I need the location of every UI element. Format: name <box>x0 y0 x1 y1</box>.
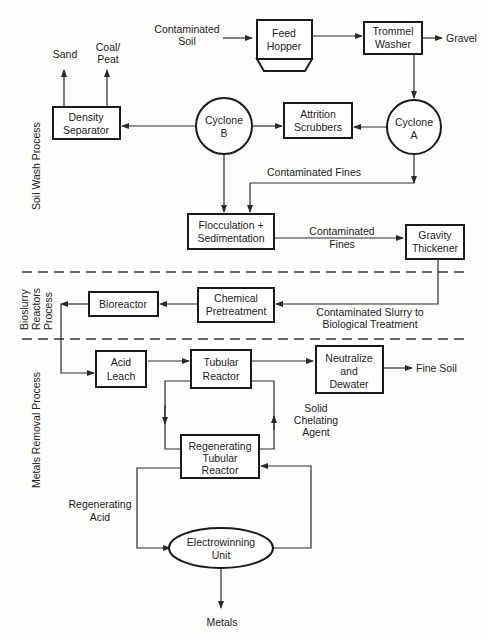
svg-text:Separator: Separator <box>63 124 110 136</box>
arrow-electrowinning-to-regen <box>261 466 311 548</box>
svg-text:Soil: Soil <box>178 35 196 47</box>
svg-text:Hopper: Hopper <box>267 40 302 52</box>
slurry-to-bio-label: Contaminated Slurry to Biological Treatm… <box>316 306 424 330</box>
density-separator-node: Density Separator <box>53 107 120 139</box>
section-label-bioslurry: Bioslurry Reactors Process <box>18 288 54 330</box>
sand-label: Sand <box>53 48 78 60</box>
trommel-washer-node: Trommel Washer <box>364 22 422 54</box>
svg-text:Neutralize: Neutralize <box>325 352 372 364</box>
svg-text:Process: Process <box>42 292 54 330</box>
svg-text:Bioreactor: Bioreactor <box>99 298 147 310</box>
electrowinning-unit-node: Electrowinning Unit <box>169 528 273 568</box>
feed-hopper-node: Feed Hopper <box>257 20 312 71</box>
cyclone-a-node: Cyclone A <box>387 100 441 154</box>
solid-chelating-agent-label: Solid Chelating Agent <box>294 402 339 438</box>
svg-text:Leach: Leach <box>107 370 136 382</box>
svg-text:Chemical: Chemical <box>214 292 258 304</box>
svg-text:Reactor: Reactor <box>202 464 239 476</box>
svg-text:Fines: Fines <box>329 238 355 250</box>
svg-text:Acid: Acid <box>111 356 132 368</box>
svg-text:Chelating: Chelating <box>294 414 339 426</box>
arrow-thickener-to-pretreatment <box>276 259 438 304</box>
svg-text:Feed: Feed <box>272 27 296 39</box>
svg-text:Contaminated: Contaminated <box>309 225 375 237</box>
gravity-thickener-node: Gravity Thickener <box>406 225 464 259</box>
svg-text:Reactors: Reactors <box>30 288 42 330</box>
svg-text:Dewater: Dewater <box>329 378 369 390</box>
svg-text:Contaminated Slurry to: Contaminated Slurry to <box>316 306 424 318</box>
svg-text:Peat: Peat <box>97 53 119 65</box>
bioreactor-node: Bioreactor <box>89 292 158 316</box>
svg-text:Scrubbers: Scrubbers <box>294 121 342 133</box>
svg-text:Unit: Unit <box>212 549 231 561</box>
cyclone-b-node: Cyclone B <box>196 98 252 154</box>
acid-leach-node: Acid Leach <box>96 351 146 387</box>
diagram-svg: Soil Wash Process Bioslurry Reactors Pro… <box>0 0 489 638</box>
attrition-scrubbers-node: Attrition Scrubbers <box>284 103 352 138</box>
svg-text:Contaminated: Contaminated <box>154 23 220 35</box>
svg-text:Cyclone: Cyclone <box>395 116 433 128</box>
svg-text:B: B <box>220 127 227 139</box>
svg-text:Washer: Washer <box>375 38 411 50</box>
svg-text:Sedimentation: Sedimentation <box>197 232 264 244</box>
fine-soil-label: Fine Soil <box>416 362 457 374</box>
svg-text:Acid: Acid <box>90 511 111 523</box>
svg-text:and: and <box>340 365 358 377</box>
contaminated-fines-label-1: Contaminated Fines <box>267 166 361 178</box>
svg-text:Pretreatment: Pretreatment <box>206 305 267 317</box>
svg-text:Tubular: Tubular <box>203 356 239 368</box>
regenerating-acid-label: Regenerating Acid <box>68 498 131 523</box>
svg-text:Gravity: Gravity <box>418 229 452 241</box>
regenerating-tubular-reactor-node: Regenerating Tubular Reactor <box>181 435 259 478</box>
svg-text:Solid: Solid <box>304 402 328 414</box>
chemical-pretreatment-node: Chemical Pretreatment <box>198 288 274 322</box>
svg-text:Electrowinning: Electrowinning <box>187 536 255 548</box>
svg-text:Reactor: Reactor <box>203 370 240 382</box>
arrow-regen-acid-to-electrowinning <box>137 468 181 548</box>
gravel-label: Gravel <box>446 32 477 44</box>
neutralize-dewater-node: Neutralize and Dewater <box>316 346 383 393</box>
svg-text:Thickener: Thickener <box>412 242 459 254</box>
svg-text:Flocculation +: Flocculation + <box>198 219 263 231</box>
process-flow-diagram: Soil Wash Process Bioslurry Reactors Pro… <box>0 0 489 638</box>
svg-text:Agent: Agent <box>302 426 330 438</box>
section-label-soil-wash: Soil Wash Process <box>30 122 42 210</box>
svg-text:Cyclone: Cyclone <box>205 114 243 126</box>
svg-text:A: A <box>410 129 417 141</box>
svg-text:Bioslurry: Bioslurry <box>18 288 30 330</box>
coal-peat-label: Coal/ Peat <box>96 41 121 65</box>
section-label-metals-removal: Metals Removal Process <box>30 372 42 488</box>
tubular-reactor-node: Tubular Reactor <box>191 350 251 388</box>
svg-text:Attrition: Attrition <box>300 108 336 120</box>
svg-text:Biological Treatment: Biological Treatment <box>322 318 417 330</box>
flocculation-node: Flocculation + Sedimentation <box>188 214 274 249</box>
svg-text:Regenerating: Regenerating <box>188 440 251 452</box>
svg-text:Regenerating: Regenerating <box>68 498 131 510</box>
metals-label: Metals <box>207 616 238 628</box>
arrow-fines-to-flocculation <box>250 183 414 212</box>
svg-text:Coal/: Coal/ <box>96 41 121 53</box>
svg-text:Trommel: Trommel <box>372 25 413 37</box>
contaminated-soil-label: Contaminated Soil <box>154 23 220 47</box>
svg-text:Density: Density <box>68 111 104 123</box>
svg-text:Tubular: Tubular <box>202 452 238 464</box>
